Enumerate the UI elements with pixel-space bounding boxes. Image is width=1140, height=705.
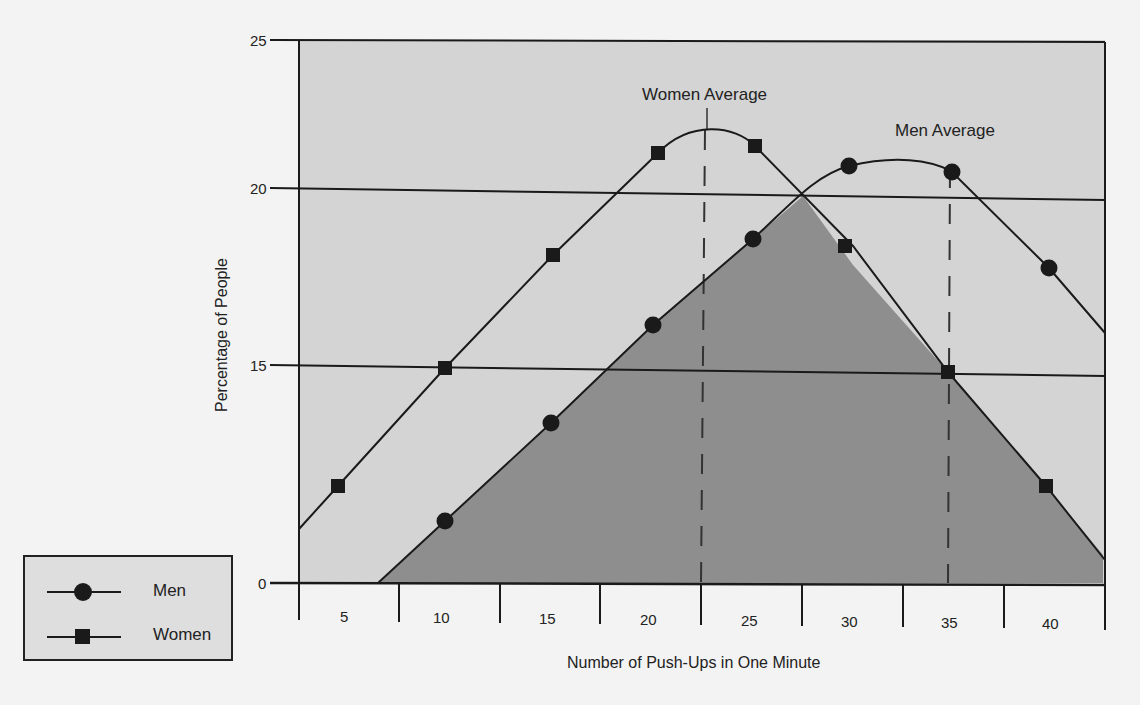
women-marker bbox=[1039, 479, 1053, 493]
x-axis bbox=[270, 583, 1105, 585]
women-marker bbox=[331, 479, 345, 493]
legend-item-men bbox=[43, 582, 123, 602]
men-marker bbox=[745, 231, 762, 248]
x-tick-label: 25 bbox=[741, 612, 758, 629]
y-tick-label: 20 bbox=[250, 180, 267, 197]
women-marker bbox=[748, 139, 762, 153]
men-marker bbox=[841, 158, 858, 175]
circle-marker-icon bbox=[43, 582, 123, 602]
legend-label: Men bbox=[153, 581, 186, 601]
x-tick-label: 20 bbox=[640, 611, 657, 628]
women-marker bbox=[651, 146, 665, 160]
women-marker bbox=[838, 239, 852, 253]
men-marker bbox=[543, 415, 560, 432]
x-tick-label: 5 bbox=[340, 608, 348, 625]
x-tick-label: 15 bbox=[539, 610, 556, 627]
men-marker bbox=[437, 513, 454, 530]
x-axis-title: Number of Push-Ups in One Minute bbox=[567, 654, 821, 671]
y-tick-label: 0 bbox=[258, 575, 266, 592]
legend-item-women bbox=[43, 627, 123, 647]
legend: Men Women bbox=[23, 555, 233, 661]
legend-label: Women bbox=[153, 625, 211, 645]
men-marker bbox=[645, 317, 662, 334]
x-ticks bbox=[399, 584, 1004, 628]
women-marker bbox=[438, 361, 452, 375]
women-marker bbox=[546, 248, 560, 262]
women-average-label: Women Average bbox=[642, 85, 767, 104]
x-tick-label: 30 bbox=[841, 613, 858, 630]
men-marker bbox=[944, 164, 961, 181]
men-marker bbox=[1041, 260, 1058, 277]
y-axis-title: Percentage of People bbox=[213, 258, 230, 412]
x-tick-label: 40 bbox=[1042, 615, 1059, 632]
x-tick-label: 35 bbox=[941, 614, 958, 631]
men-average-label: Men Average bbox=[895, 121, 995, 140]
y-tick-label: 15 bbox=[250, 357, 267, 374]
y-tick-label: 25 bbox=[250, 32, 267, 49]
square-marker-icon bbox=[43, 627, 123, 647]
women-marker bbox=[941, 365, 955, 379]
x-tick-label: 10 bbox=[433, 609, 450, 626]
